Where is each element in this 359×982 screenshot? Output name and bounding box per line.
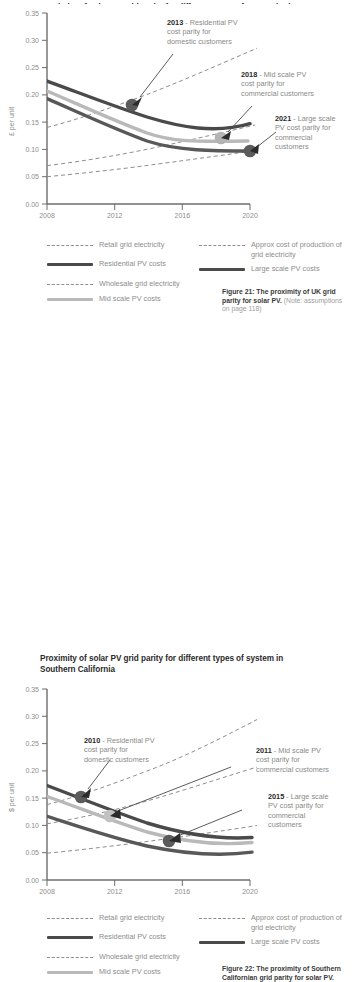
figure-22-block: Proximity of solar PV grid parity for di… [0,325,359,673]
figure-22-title: Proximity of solar PV grid parity for di… [40,653,310,675]
legend-label: Approx cost of production of grid electr… [251,240,351,259]
legend-item: Large scale PV costs [199,937,359,947]
y-tick-label: 0.20 [25,767,39,774]
y-tick-label: 0.10 [25,146,39,153]
legend-swatch-solid-dark-icon [47,933,93,942]
x-tick-label: 2008 [39,212,55,219]
annotation-2018-line3: commercial customers [241,89,314,98]
annotation-2010-text: - Residential PV [100,736,154,745]
y-tick-label: 0.25 [25,64,39,71]
legend-swatch-dashed-icon [47,241,93,250]
annotation-2015-line2: PV cost parity for [268,801,324,810]
y-tick-labels: 0.00 0.05 0.10 0.15 0.20 0.25 0.30 0.35 [25,10,39,208]
legend-item: Mid scale PV costs [47,294,197,304]
annotation-2010-line2: cost parity for [84,745,128,754]
legend-item: Wholesale grid electricity [47,279,197,289]
legend-item: Residential PV costs [47,932,197,942]
annotation-2015-text: - Large scale [284,792,328,801]
annotation-2018-line2: cost parity for [241,79,285,88]
annotation-2018: 2018 - Mid scale PV cost parity for comm… [241,70,359,98]
legend-item: Mid scale PV costs [47,967,197,977]
annotation-2011-text: - Mid scale PV [272,746,321,755]
x-tick-marks [47,204,250,210]
y-axis-title: $ per unit [8,783,16,812]
legend-swatch-solid-dark-icon [47,260,93,269]
y-tick-marks [42,689,47,880]
x-tick-label: 2016 [175,212,191,219]
figure-21-block: Proximity of solar PV grid parity for di… [0,0,359,325]
leader-2015 [178,810,242,836]
legend-label: Large scale PV costs [251,937,320,947]
y-tick-label: 0.15 [25,119,39,126]
annotation-2013-text: - Residential PV [183,18,237,27]
legend-swatch-dashed-icon [47,280,93,289]
legend-label: Wholesale grid electricity [99,279,180,289]
annotation-2018-year: 2018 [241,70,257,79]
x-tick-marks [47,880,250,886]
annotation-2011: 2011 - Mid scale PV cost parity for comm… [256,746,359,774]
legend-label: Large scale PV costs [251,264,320,274]
series-approx-cost-production [47,125,255,166]
annotation-2013-line2: cost parity for [167,27,211,36]
x-tick-label: 2020 [242,888,258,895]
annotation-2011-line3: commercial customers [256,765,329,774]
legend-swatch-solid-mid-icon [47,968,93,977]
y-tick-marks [42,13,47,204]
leader-2010 [88,760,110,789]
figure-22-caption: Figure 22: The proximity of Southern Cal… [222,965,347,982]
y-tick-label: 0.10 [25,822,39,829]
legend-swatch-dashed-icon [199,914,245,923]
legend-label: Residential PV costs [99,932,166,942]
annotation-2011-year: 2011 [256,746,272,755]
legend-item: Residential PV costs [47,259,197,269]
annotation-2010-line3: domestic customers [84,755,149,764]
y-tick-label: 0.05 [25,173,39,180]
annotation-leaders [132,54,276,154]
legend-label: Retail grid electricity [99,240,164,250]
annotation-2018-text: - Mid scale PV [257,70,306,79]
annotation-2021-year: 2021 [275,114,291,123]
series-group-21 [47,46,262,177]
legend-label: Approx cost of production of grid electr… [251,913,351,932]
figure-22-title-text: Proximity of solar PV grid parity for di… [40,654,283,674]
annotation-2021-line4: customers [275,142,309,151]
series-retail-grid-electricity [47,46,262,127]
figure-22-svg: 0.00 0.05 0.10 0.15 0.20 0.25 0.30 0.35 … [0,680,330,895]
annotation-2010-year: 2010 [84,736,100,745]
annotation-2013-line3: domestic customers [167,37,232,46]
leader-2011 [118,767,231,811]
legend-label: Wholesale grid electricity [99,952,180,962]
y-axis-title: £ per unit [8,107,16,136]
legend-label: Residential PV costs [99,259,166,269]
annotation-2021-line2: PV cost parity for [275,123,331,132]
y-tick-label: 0.05 [25,849,39,856]
figure-21-caption: Figure 21: The proximity of UK grid pari… [222,288,347,314]
annotation-leaders [81,760,242,843]
x-tick-label: 2012 [107,888,123,895]
legend-swatch-dashed-icon [47,914,93,923]
figure-22-plot: 0.00 0.05 0.10 0.15 0.20 0.25 0.30 0.35 … [0,680,330,895]
legend-label: Retail grid electricity [99,913,164,923]
annotation-2015: 2015 - Large scale PV cost parity for co… [268,792,359,830]
annotation-2013-year: 2013 [167,18,183,27]
annotation-2013: 2013 - Residential PV cost parity for do… [167,18,297,46]
leader-2021 [257,132,276,147]
y-tick-label: 0.25 [25,740,39,747]
x-tick-label: 2012 [107,212,123,219]
y-tick-label: 0.30 [25,37,39,44]
annotation-2021-text: - Large scale [291,114,335,123]
y-tick-label: 0.00 [25,877,39,884]
series-wholesale-grid-electricity [47,151,255,177]
legend-swatch-solid-dark-icon [199,265,245,274]
annotation-2015-line4: customers [268,820,302,829]
y-tick-label: 0.20 [25,91,39,98]
legend-swatch-dashed-icon [199,241,245,250]
x-tick-labels: 2008 2012 2016 2020 [39,212,258,219]
annotation-2015-year: 2015 [268,792,284,801]
y-tick-label: 0.15 [25,795,39,802]
annotation-2021: 2021 - Large scale PV cost parity for co… [275,114,359,152]
legend-item: Wholesale grid electricity [47,952,197,962]
y-tick-label: 0.00 [25,201,39,208]
legend-swatch-dashed-icon [47,953,93,962]
annotation-2021-line3: commercial [275,133,312,142]
